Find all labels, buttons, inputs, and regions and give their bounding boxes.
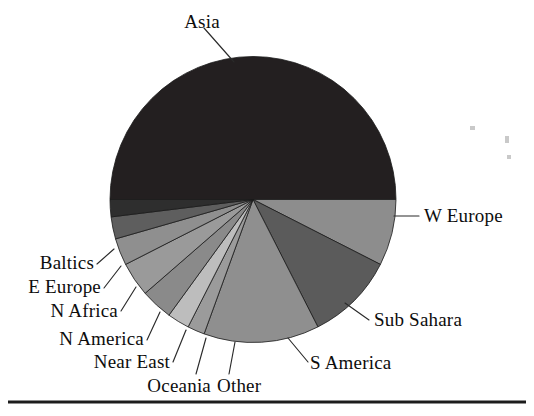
leader-line-asia [204,28,234,62]
pie-slices-group [110,57,396,343]
leader-line-baltics [97,249,114,264]
leader-line-n-america [147,312,160,340]
pie-label-sub-sahara: Sub Sahara [374,309,462,330]
leader-line-e-europe [104,266,121,288]
pie-label-n-america: N America [59,328,144,349]
pie-label-oceania: Oceania [147,375,211,396]
leader-line-near-east [173,330,186,362]
pie-label-w-europe: W Europe [424,205,503,226]
pie-chart-canvas: Asia W Europe Sub Sahara S America Other… [0,0,534,416]
pie-label-n-africa: N Africa [50,300,118,321]
scan-specks [470,126,511,159]
pie-slice-asia[interactable] [110,57,396,200]
leader-line-n-africa [121,287,136,311]
pie-label-other: Other [217,375,262,396]
leader-line-oceania [196,338,206,374]
pie-label-baltics: Baltics [40,252,94,273]
leader-line-sub-sahara [345,303,369,320]
leader-line-other [229,342,235,374]
pie-label-s-america: S America [310,352,392,373]
leader-line-s-america [288,338,308,362]
pie-label-asia: Asia [184,11,220,32]
pie-label-near-east: Near East [94,351,171,372]
pie-chart-figure: Asia W Europe Sub Sahara S America Other… [0,0,534,416]
pie-label-e-europe: E Europe [28,276,101,297]
